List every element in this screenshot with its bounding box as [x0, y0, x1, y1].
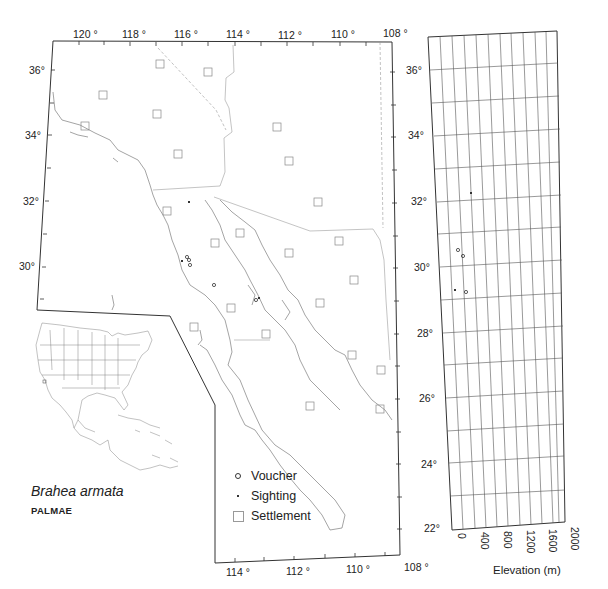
- voucher-marker: [187, 258, 190, 261]
- svg-text:0: 0: [456, 533, 468, 539]
- svg-text:120 °: 120 °: [73, 28, 98, 40]
- svg-text:114 °: 114 °: [226, 566, 250, 578]
- settlement-marker: [314, 198, 322, 206]
- inset-north-america-map: [36, 323, 178, 470]
- species-name: Brahea armata: [31, 483, 124, 499]
- settlement-marker: [163, 207, 171, 215]
- svg-text:1200: 1200: [525, 530, 537, 554]
- legend-label-voucher: Voucher: [251, 469, 297, 483]
- voucher-elevation-marker: [456, 248, 459, 251]
- settlement-marker: [153, 110, 161, 118]
- svg-text:112 °: 112 °: [286, 565, 310, 577]
- svg-text:400: 400: [479, 532, 491, 550]
- sighting-marker: [258, 297, 260, 299]
- svg-text:34°: 34°: [25, 129, 41, 141]
- svg-text:114 °: 114 °: [226, 28, 250, 40]
- voucher-marker: [188, 263, 191, 266]
- settlement-marker: [227, 304, 235, 312]
- sighting-marker: [188, 201, 190, 203]
- family-name: PALMAE: [31, 505, 72, 516]
- map-legend: Voucher Sighting Settlement: [231, 466, 311, 526]
- svg-text:30°: 30°: [19, 260, 35, 272]
- settlement-marker: [190, 323, 198, 331]
- voucher-marker: [185, 255, 188, 258]
- legend-item-settlement: Settlement: [231, 506, 311, 526]
- settlement-marker: [335, 237, 343, 245]
- elevation-gridlines-horizontal: [430, 63, 565, 496]
- voucher-marker: [212, 283, 215, 286]
- svg-text:32°: 32°: [411, 195, 427, 207]
- legend-item-voucher: Voucher: [231, 466, 311, 486]
- svg-text:2000: 2000: [569, 527, 581, 551]
- settlement-icon: [231, 511, 245, 522]
- top-longitude-labels: 120 ° 118 ° 116 ° 114 ° 112 ° 110 ° 108 …: [73, 27, 408, 41]
- voucher-elevation-marker: [461, 254, 464, 257]
- elevation-gridlines-vertical: [440, 32, 559, 529]
- svg-text:112 °: 112 °: [278, 29, 302, 41]
- elevation-points: [454, 192, 472, 294]
- bottom-longitude-labels: 114 ° 112 ° 110 ° 108 °: [226, 561, 429, 578]
- settlement-marker: [262, 330, 270, 338]
- legend-label-sighting: Sighting: [251, 489, 296, 503]
- settlement-marker: [348, 351, 356, 359]
- svg-text:800: 800: [502, 531, 514, 549]
- sighting-icon: [231, 495, 245, 497]
- svg-text:110 °: 110 °: [331, 28, 355, 40]
- legend-item-sighting: Sighting: [231, 486, 311, 506]
- settlement-marker: [285, 249, 293, 257]
- svg-text:24°: 24°: [421, 458, 437, 470]
- sighting-marker: [181, 260, 183, 262]
- settlement-marker: [99, 91, 107, 99]
- svg-text:36°: 36°: [29, 64, 45, 76]
- settlement-marker: [236, 229, 244, 237]
- svg-text:118 °: 118 °: [122, 28, 146, 40]
- svg-text:108 °: 108 °: [404, 561, 429, 573]
- settlement-marker: [285, 157, 293, 165]
- settlement-marker: [350, 276, 358, 284]
- settlement-marker: [211, 239, 219, 247]
- svg-text:110 °: 110 °: [346, 563, 370, 575]
- svg-text:116 °: 116 °: [174, 28, 198, 40]
- elevation-panel-frame: [428, 31, 565, 530]
- svg-text:26°: 26°: [419, 392, 435, 404]
- coastlines: [53, 92, 392, 530]
- voucher-elevation-marker: [464, 290, 467, 293]
- svg-text:28°: 28°: [417, 327, 433, 339]
- svg-text:108 °: 108 °: [383, 27, 408, 39]
- settlement-marker: [306, 402, 314, 410]
- settlement-marker: [174, 150, 182, 158]
- svg-text:32°: 32°: [23, 195, 39, 207]
- settlement-marker: [316, 299, 324, 307]
- svg-text:22°: 22°: [424, 522, 440, 534]
- settlement-marker: [377, 366, 385, 374]
- settlement-marker: [273, 123, 281, 131]
- occurrence-points: [181, 201, 260, 302]
- svg-text:34°: 34°: [408, 129, 424, 141]
- right-latitude-labels: 36° 34° 32° 30° 28° 26° 24° 22°: [406, 64, 440, 534]
- settlement-marker: [204, 68, 212, 76]
- left-ticks: [40, 70, 55, 299]
- sighting-elevation-marker: [454, 289, 456, 291]
- svg-text:36°: 36°: [406, 64, 422, 76]
- sighting-elevation-marker: [470, 192, 472, 194]
- elevation-axis-title: Elevation (m): [493, 564, 561, 576]
- svg-text:1600: 1600: [547, 529, 559, 553]
- legend-label-settlement: Settlement: [251, 509, 311, 523]
- svg-text:30°: 30°: [414, 261, 430, 273]
- voucher-icon: [231, 473, 245, 479]
- settlement-marker: [156, 60, 164, 68]
- elevation-tick-labels: 0 400 800 1200 1600 2000: [456, 527, 581, 554]
- voucher-marker: [254, 298, 257, 301]
